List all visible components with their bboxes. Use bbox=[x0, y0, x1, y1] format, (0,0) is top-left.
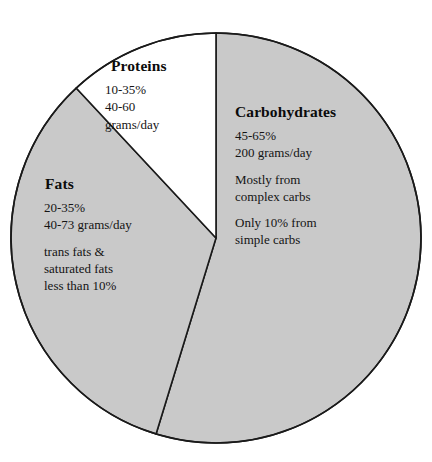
slice-label-fats-lines: 20-35% 40-73 grams/day trans fats & satu… bbox=[44, 199, 132, 294]
slice-label-proteins-line-1: 10-35% bbox=[105, 81, 167, 98]
pie-chart: Proteins 10-35% 40-60 grams/day Carbohyd… bbox=[0, 0, 432, 462]
slice-label-fats-line-1: 20-35% bbox=[44, 199, 132, 216]
slice-label-proteins-line-2: 40-60 bbox=[105, 98, 167, 115]
slice-label-fats-heading: Fats bbox=[45, 176, 132, 192]
slice-label-carbohydrates-line-2: 200 grams/day bbox=[235, 144, 336, 161]
slice-label-carbohydrates-line-3: Mostly from bbox=[235, 171, 336, 188]
slice-label-carbohydrates-line-4: complex carbs bbox=[235, 188, 336, 205]
slice-label-carbohydrates-line-5: Only 10% from bbox=[235, 214, 336, 231]
slice-label-proteins-heading: Proteins bbox=[111, 58, 167, 74]
slice-label-carbohydrates-lines: 45-65% 200 grams/day Mostly from complex… bbox=[235, 127, 336, 248]
slice-label-proteins-lines: 10-35% 40-60 grams/day bbox=[105, 81, 167, 132]
slice-label-carbohydrates: Carbohydrates 45-65% 200 grams/day Mostl… bbox=[235, 104, 336, 248]
slice-label-fats-line-3: trans fats & bbox=[44, 243, 132, 260]
slice-label-proteins: Proteins 10-35% 40-60 grams/day bbox=[105, 58, 167, 133]
slice-label-carbohydrates-line-6: simple carbs bbox=[235, 231, 336, 248]
slice-label-fats: Fats 20-35% 40-73 grams/day trans fats &… bbox=[44, 176, 132, 294]
slice-label-fats-line-5: less than 10% bbox=[44, 277, 132, 294]
slice-label-carbohydrates-heading: Carbohydrates bbox=[235, 104, 336, 120]
slice-label-fats-spacer-1 bbox=[44, 234, 132, 243]
slice-label-fats-line-2: 40-73 grams/day bbox=[44, 216, 132, 233]
slice-label-fats-line-4: saturated fats bbox=[44, 260, 132, 277]
slice-label-carbohydrates-spacer-2 bbox=[235, 205, 336, 214]
slice-label-proteins-line-3: grams/day bbox=[105, 116, 167, 133]
slice-label-carbohydrates-spacer-1 bbox=[235, 162, 336, 171]
slice-label-carbohydrates-line-1: 45-65% bbox=[235, 127, 336, 144]
